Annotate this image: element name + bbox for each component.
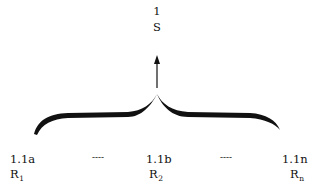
node-1-1n-label: Rn: [290, 168, 304, 182]
node-1-1b-label: R2: [149, 168, 163, 182]
node-1-1n-code: 1.1n: [282, 153, 308, 166]
node-1-1a-code: 1.1a: [10, 153, 35, 166]
node-1-1a-label: R1: [10, 168, 24, 182]
arrow-up-icon: [154, 55, 160, 88]
node-1-1b-code: 1.1b: [146, 153, 172, 166]
curly-brace-icon: [34, 94, 280, 135]
ellipsis-left: ----: [92, 151, 104, 164]
diagram-canvas: 1 S 1.1a R1 ---- 1.1b R2 ---- 1.1n Rn: [0, 0, 315, 192]
ellipsis-right: ----: [220, 151, 232, 164]
